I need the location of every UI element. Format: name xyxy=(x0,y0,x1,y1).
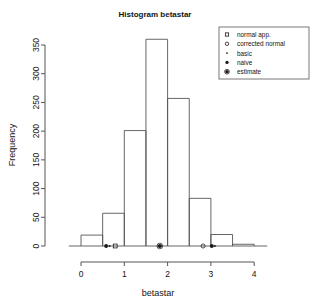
svg-text:basic: basic xyxy=(237,50,253,57)
svg-text:2: 2 xyxy=(165,269,170,279)
svg-text:naive: naive xyxy=(237,59,253,66)
svg-text:0: 0 xyxy=(79,269,84,279)
svg-text:350: 350 xyxy=(31,38,41,52)
svg-text:estimate: estimate xyxy=(237,68,262,75)
svg-text:250: 250 xyxy=(31,95,41,109)
svg-text:normal app.: normal app. xyxy=(237,31,271,39)
y-axis-label: Frequency xyxy=(7,123,17,166)
svg-text:100: 100 xyxy=(31,181,41,195)
svg-text:150: 150 xyxy=(31,152,41,166)
svg-text:4: 4 xyxy=(252,269,257,279)
chart-title: Histogram betastar xyxy=(119,10,192,19)
histogram-chart: Histogram betastar Frequency betastar 05… xyxy=(0,0,311,306)
svg-text:0: 0 xyxy=(31,243,41,248)
x-axis-label: betastar xyxy=(142,288,175,298)
svg-text:3: 3 xyxy=(209,269,214,279)
svg-text:300: 300 xyxy=(31,66,41,80)
svg-text:200: 200 xyxy=(31,124,41,138)
svg-text:corrected normal: corrected normal xyxy=(237,40,285,47)
legend: normal app.corrected normalbasicnaiveest… xyxy=(219,27,309,79)
svg-text:1: 1 xyxy=(122,269,127,279)
svg-text:50: 50 xyxy=(31,212,41,222)
